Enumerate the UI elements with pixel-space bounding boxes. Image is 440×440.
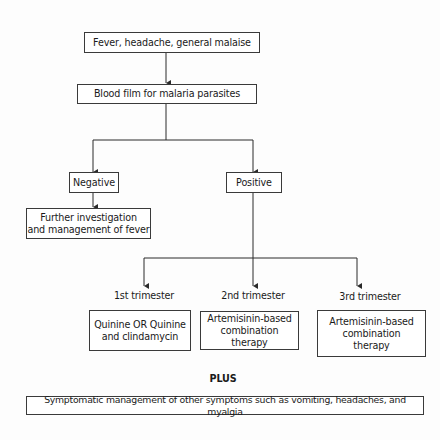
blood-film-test-box: Blood film for malaria parasites [77, 84, 257, 104]
negative-result-box: Negative [69, 172, 119, 193]
start-symptoms-box: Fever, headache, general malaise [84, 32, 260, 53]
symptomatic-management-box: Symptomatic management of other symptoms… [26, 396, 424, 415]
trimester-1-label: 1st trimester [94, 290, 194, 301]
plus-label: PLUS [190, 373, 256, 384]
trimester-3-treatment-box: Artemisinin-based combination therapy [317, 310, 426, 357]
further-investigation-box: Further investigation and management of … [26, 208, 151, 239]
trimester-2-treatment-box: Artemisinin-based combination therapy [200, 311, 299, 350]
trimester-2-label: 2nd trimester [203, 290, 303, 301]
positive-result-box: Positive [226, 172, 282, 193]
trimester-3-label: 3rd trimester [315, 291, 425, 302]
malaria-pregnancy-flowchart: Fever, headache, general malaise Blood f… [0, 0, 440, 440]
trimester-1-treatment-box: Quinine OR Quinine and clindamycin [89, 310, 191, 351]
